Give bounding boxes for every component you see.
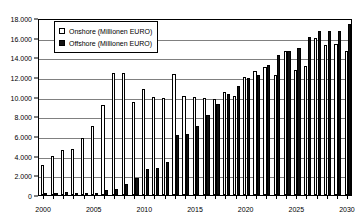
bar-offshore: [287, 51, 290, 195]
x-axis-tick-mark: [144, 196, 145, 199]
x-axis-tick-mark: [205, 196, 206, 199]
bar-group: [161, 20, 171, 195]
x-axis: 2000200520102015202020252030: [38, 196, 352, 223]
bar-onshore: [112, 73, 115, 195]
bar-offshore: [257, 75, 260, 195]
bar-group: [272, 20, 282, 195]
x-axis-tick-mark: [317, 196, 318, 199]
x-axis-tick-mark: [215, 196, 216, 199]
x-axis-tick-mark: [134, 196, 135, 199]
bar-offshore: [156, 168, 159, 195]
bar-offshore: [348, 24, 351, 195]
y-axis-tick-label: 8.000: [14, 114, 32, 121]
bar-onshore: [101, 105, 104, 195]
legend-swatch-offshore-icon: [59, 40, 65, 46]
bar-group: [252, 20, 262, 195]
y-axis-tick-label: 12.000: [11, 75, 32, 82]
bar-onshore: [91, 126, 94, 195]
bar-offshore: [318, 31, 321, 195]
bar-group: [221, 20, 231, 195]
legend-label-offshore: Offshore (Millionen EURO): [69, 40, 152, 47]
bar-group: [201, 20, 211, 195]
x-axis-tick-mark: [195, 196, 196, 199]
bar-offshore: [216, 104, 219, 195]
bar-offshore: [206, 115, 209, 195]
bar-group: [242, 20, 252, 195]
y-axis-tick-label: 4.000: [14, 153, 32, 160]
x-axis-tick-label: 2025: [288, 206, 304, 213]
y-axis-tick-label: 0: [28, 193, 32, 200]
bar-offshore: [85, 193, 88, 195]
x-axis-tick-mark: [114, 196, 115, 199]
y-axis-tick-label: 10.000: [11, 94, 32, 101]
bar-group: [343, 20, 352, 195]
bar-offshore: [297, 48, 300, 196]
x-axis-tick-mark: [175, 196, 176, 199]
x-axis-tick-mark: [225, 196, 226, 199]
x-axis-tick-mark: [236, 196, 237, 199]
bar-offshore: [328, 31, 331, 195]
bar-group: [323, 20, 333, 195]
x-axis-tick-mark: [347, 196, 348, 199]
x-axis-tick-mark: [256, 196, 257, 199]
x-axis-tick-label: 2030: [339, 206, 355, 213]
x-axis-tick-mark: [124, 196, 125, 199]
bar-onshore: [122, 73, 125, 195]
x-axis-tick-mark: [246, 196, 247, 199]
legend-swatch-onshore-icon: [59, 28, 65, 34]
x-axis-tick-mark: [276, 196, 277, 199]
bar-group: [262, 20, 272, 195]
bar-group: [333, 20, 343, 195]
x-axis-tick-label: 2000: [35, 206, 51, 213]
bar-group: [191, 20, 201, 195]
x-axis-tick-mark: [154, 196, 155, 199]
bar-group: [282, 20, 292, 195]
y-axis-tick-label: 18.000: [11, 16, 32, 23]
x-axis-tick-mark: [306, 196, 307, 199]
bar-offshore: [196, 126, 199, 195]
x-axis-tick-mark: [73, 196, 74, 199]
x-axis-tick-mark: [337, 196, 338, 199]
y-axis-tick-label: 14.000: [11, 55, 32, 62]
x-axis-tick-mark: [296, 196, 297, 199]
bar-offshore: [166, 162, 169, 195]
bar-offshore: [44, 193, 47, 195]
x-axis-tick-label: 2010: [137, 206, 153, 213]
bar-group: [312, 20, 322, 195]
bar-group: [211, 20, 221, 195]
bar-offshore: [105, 190, 108, 195]
bar-group: [181, 20, 191, 195]
legend-item-onshore: Onshore (Millionen EURO): [59, 25, 152, 37]
x-axis-tick-mark: [43, 196, 44, 199]
bar-offshore: [186, 134, 189, 195]
bar-offshore: [176, 135, 179, 195]
bar-offshore: [65, 192, 68, 195]
y-axis-tick-label: 16.000: [11, 35, 32, 42]
bar-onshore: [81, 138, 84, 195]
bar-group: [39, 20, 49, 195]
y-axis-tick-label: 2.000: [14, 173, 32, 180]
bar-offshore: [308, 37, 311, 195]
bar-offshore: [125, 184, 128, 195]
bar-chart: 02.0004.0006.0008.00010.00012.00014.0001…: [0, 0, 356, 223]
x-axis-tick-mark: [266, 196, 267, 199]
x-axis-tick-mark: [165, 196, 166, 199]
bar-onshore: [41, 165, 44, 195]
chart-legend: Onshore (Millionen EURO) Offshore (Milli…: [54, 21, 158, 53]
x-axis-tick-label: 2015: [187, 206, 203, 213]
x-axis-tick-mark: [53, 196, 54, 199]
bar-group: [302, 20, 312, 195]
bar-offshore: [267, 65, 270, 195]
legend-item-offshore: Offshore (Millionen EURO): [59, 37, 152, 49]
bar-offshore: [146, 169, 149, 195]
x-axis-tick-mark: [84, 196, 85, 199]
bar-group: [231, 20, 241, 195]
legend-label-onshore: Onshore (Millionen EURO): [69, 28, 152, 35]
bar-offshore: [135, 178, 138, 195]
bar-offshore: [95, 193, 98, 195]
bar-offshore: [277, 55, 280, 195]
bar-group: [171, 20, 181, 195]
bar-offshore: [115, 189, 118, 195]
x-axis-tick-mark: [63, 196, 64, 199]
x-axis-tick-mark: [104, 196, 105, 199]
